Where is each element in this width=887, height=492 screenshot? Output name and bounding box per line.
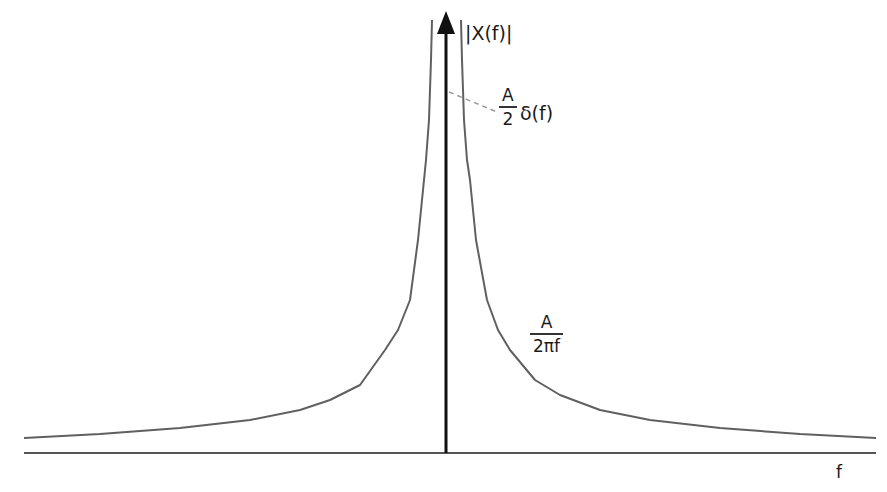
y-axis-label: |X(f)|	[465, 22, 512, 44]
fraction-bar	[499, 106, 517, 108]
delta-coefficient-numerator: A	[499, 86, 517, 104]
spectrum-diagram	[0, 0, 887, 492]
x-axis-label: f	[836, 462, 842, 482]
delta-leader-line	[449, 92, 497, 112]
magnitude-curve-right	[461, 20, 876, 438]
delta-coefficient-denominator: 2	[499, 110, 516, 128]
curve-annotation-numerator: A	[538, 313, 556, 331]
fraction-bar	[530, 333, 563, 335]
curve-annotation-fraction: A 2πf	[530, 313, 563, 355]
delta-coefficient-fraction: A 2	[499, 86, 517, 128]
delta-impulse-arrowhead-icon	[437, 11, 455, 34]
delta-function-label: δ(f)	[520, 102, 553, 124]
curve-annotation-denominator: 2πf	[530, 337, 563, 355]
magnitude-curve-left	[24, 20, 432, 438]
